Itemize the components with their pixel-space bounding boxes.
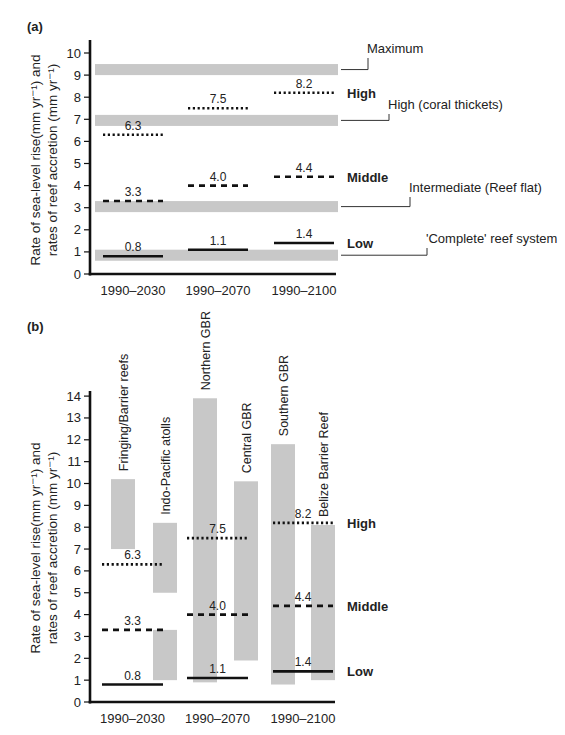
- x-tick-label: 1990–2070: [185, 283, 250, 298]
- scenario-label-middle: Middle: [347, 599, 388, 614]
- panel-b-chart: Fringing/Barrier reefsIndo-Pacific atoll…: [67, 311, 389, 726]
- band-label: High (coral thickets): [388, 97, 503, 112]
- value-label: 1.4: [296, 227, 313, 241]
- value-label: 1.1: [209, 662, 226, 676]
- reef-accretion-band: [95, 64, 338, 75]
- scenario-label-middle: Middle: [347, 170, 388, 185]
- y-tick-label: 4: [74, 178, 81, 193]
- ylabel-line2: rates of reef accretion (mm yr⁻¹): [45, 452, 60, 644]
- x-tick-label: 1990–2030: [100, 283, 165, 298]
- y-tick-label: 14: [67, 389, 81, 404]
- reef-type-label: Fringing/Barrier reefs: [117, 354, 131, 471]
- ylabel-line2: rates of reef accretion (mm yr⁻¹): [45, 64, 60, 256]
- reef-type-label: Southern GBR: [277, 355, 291, 436]
- value-label: 8.2: [296, 77, 313, 91]
- panel-a-chart: MaximumHigh (coral thickets)Intermediate…: [67, 40, 558, 298]
- callout-connector: [341, 58, 368, 70]
- y-tick-label: 7: [74, 112, 81, 127]
- y-tick-label: 5: [74, 156, 81, 171]
- reef-type-label: Indo-Pacific atolls: [159, 417, 173, 515]
- value-label: 7.5: [210, 92, 227, 106]
- y-tick-label: 0: [74, 695, 81, 710]
- reef-type-label: Central GBR: [240, 402, 254, 473]
- reef-range-bar: [271, 444, 295, 684]
- panel-b-ylabel: Rate of sea-level rise(mm yr⁻¹) and rate…: [28, 442, 60, 653]
- y-tick-label: 0: [74, 267, 81, 282]
- value-label: 6.3: [124, 548, 141, 562]
- value-label: 4.4: [296, 161, 313, 175]
- reef-type-label: Belize Barrier Reef: [317, 412, 331, 517]
- scenario-label-high: High: [347, 86, 376, 101]
- value-label: 4.4: [295, 590, 312, 604]
- reef-range-bar: [111, 479, 135, 549]
- scenario-label-high: High: [347, 516, 376, 531]
- value-label: 3.3: [125, 185, 142, 199]
- value-label: 0.8: [124, 669, 141, 683]
- y-tick-label: 6: [74, 563, 81, 578]
- value-label: 7.5: [209, 522, 226, 536]
- panel-b-label: (b): [27, 319, 44, 334]
- y-tick-label: 13: [67, 410, 81, 425]
- scenario-label-low: Low: [347, 664, 374, 679]
- figure: (a) (b) Rate of sea-level rise(mm yr⁻¹) …: [0, 0, 565, 735]
- y-tick-label: 7: [74, 542, 81, 557]
- x-tick-label: 1990–2030: [100, 711, 165, 726]
- panel-a-ylabel: Rate of sea-level rise(mm yr⁻¹) and rate…: [28, 54, 60, 265]
- panel-a-label: (a): [27, 19, 43, 34]
- band-label: Intermediate (Reef flat): [409, 180, 542, 195]
- y-tick-label: 9: [74, 68, 81, 83]
- y-tick-label: 9: [74, 498, 81, 513]
- x-tick-label: 1990–2070: [185, 711, 250, 726]
- value-label: 8.2: [295, 507, 312, 521]
- callout-connector: [341, 197, 410, 207]
- reef-range-bar: [153, 523, 177, 593]
- y-tick-label: 3: [74, 629, 81, 644]
- reef-range-bar: [193, 398, 217, 682]
- y-tick-label: 10: [67, 46, 81, 61]
- x-tick-label: 1990–2100: [271, 283, 336, 298]
- y-tick-label: 2: [74, 222, 81, 237]
- reef-range-bar: [153, 630, 177, 680]
- x-tick-label: 1990–2100: [270, 711, 335, 726]
- value-label: 4.0: [209, 599, 226, 613]
- y-tick-label: 10: [67, 476, 81, 491]
- band-label: 'Complete' reef system: [426, 231, 557, 246]
- y-tick-label: 8: [74, 520, 81, 535]
- y-tick-label: 8: [74, 90, 81, 105]
- callout-connector: [341, 114, 389, 120]
- y-tick-label: 11: [68, 454, 82, 469]
- band-label: Maximum: [367, 41, 423, 56]
- y-tick-label: 2: [74, 651, 81, 666]
- value-label: 4.0: [210, 170, 227, 184]
- y-tick-label: 1: [74, 673, 81, 688]
- y-tick-label: 5: [74, 585, 81, 600]
- y-tick-label: 3: [74, 200, 81, 215]
- value-label: 6.3: [125, 119, 142, 133]
- ylabel-line1: Rate of sea-level rise(mm yr⁻¹) and: [28, 442, 43, 653]
- y-tick-label: 6: [74, 134, 81, 149]
- value-label: 1.1: [210, 234, 227, 248]
- value-label: 1.4: [295, 655, 312, 669]
- reef-type-label: Northern GBR: [199, 311, 213, 390]
- scenario-label-low: Low: [347, 236, 374, 251]
- y-tick-label: 1: [74, 244, 81, 259]
- y-tick-label: 4: [74, 607, 81, 622]
- ylabel-line1: Rate of sea-level rise(mm yr⁻¹) and: [28, 54, 43, 265]
- y-tick-label: 12: [67, 432, 81, 447]
- reef-accretion-band: [95, 201, 338, 212]
- reef-range-bar: [234, 481, 258, 660]
- value-label: 3.3: [124, 614, 141, 628]
- value-label: 0.8: [125, 240, 142, 254]
- reef-range-bar: [311, 525, 335, 680]
